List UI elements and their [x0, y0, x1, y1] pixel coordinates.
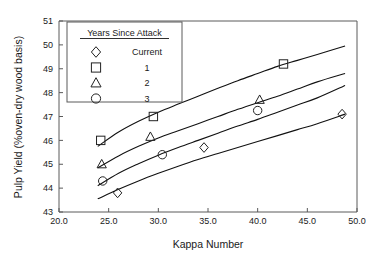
x-tick-label: 20.0 — [50, 216, 68, 226]
x-axis-title: Kappa Number — [173, 238, 244, 250]
y-tick-label: 46 — [43, 136, 53, 146]
data-point-triangle — [146, 132, 155, 140]
x-axis-tick-labels: 20.025.030.035.040.045.050.0 — [50, 216, 366, 226]
x-tick-label: 45.0 — [299, 216, 317, 226]
x-tick-label: 25.0 — [100, 216, 118, 226]
y-tick-label: 44 — [43, 183, 53, 193]
y-tick-label: 50 — [43, 40, 53, 50]
fit-curve-current — [98, 114, 345, 199]
x-tick-label: 40.0 — [249, 216, 267, 226]
data-point-circle — [253, 106, 261, 114]
legend-label-3: 3 — [144, 94, 149, 104]
chart-legend: Years Since AttackCurrent123 — [67, 22, 182, 104]
data-point-square — [97, 136, 105, 144]
y-tick-label: 51 — [43, 16, 53, 26]
scatter-plot: 20.025.030.035.040.045.050.0 43444546474… — [0, 0, 381, 262]
y-axis-title: Pulp Yield (%oven-dry wood basis) — [12, 36, 24, 198]
y-tick-label: 48 — [43, 88, 53, 98]
legend-label-1: 1 — [144, 63, 149, 73]
chart-figure: 20.025.030.035.040.045.050.0 43444546474… — [0, 0, 381, 262]
y-axis-tick-labels: 434445464748495051 — [43, 16, 53, 217]
data-point-diamond — [200, 143, 208, 153]
x-tick-label: 50.0 — [348, 216, 366, 226]
x-tick-label: 35.0 — [199, 216, 217, 226]
legend-title: Years Since Attack — [87, 28, 162, 38]
y-tick-label: 47 — [43, 112, 53, 122]
y-tick-label: 45 — [43, 159, 53, 169]
y-tick-label: 43 — [43, 207, 53, 217]
legend-label-2: 2 — [144, 78, 149, 88]
x-tick-label: 30.0 — [150, 216, 168, 226]
y-tick-label: 49 — [43, 64, 53, 74]
legend-label-current: Current — [132, 47, 163, 57]
